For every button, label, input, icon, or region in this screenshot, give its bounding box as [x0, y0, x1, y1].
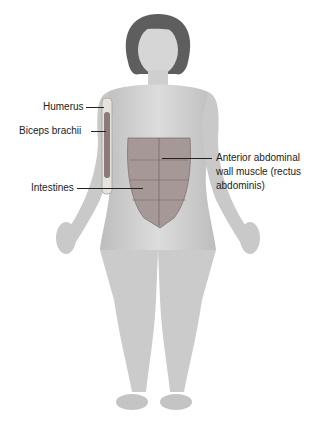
- anatomy-figure: [0, 0, 316, 426]
- right-leg: [158, 250, 216, 392]
- intestines-label: Intestines: [31, 182, 74, 194]
- biceps-leader: [91, 131, 106, 132]
- left-leg: [100, 250, 158, 392]
- humerus-label: Humerus: [43, 101, 84, 113]
- biceps-label: Biceps brachii: [19, 125, 81, 137]
- biceps-muscle: [104, 112, 110, 178]
- abdominal-leader: [162, 158, 212, 159]
- abdominal-label-3: abdominis): [216, 180, 265, 192]
- humerus-leader: [86, 107, 104, 108]
- abdominal-label-1: Anterior abdominal: [216, 152, 300, 164]
- face: [138, 25, 178, 75]
- intestines-leader: [77, 188, 143, 189]
- abdominal-label-2: wall muscle (rectus: [216, 166, 301, 178]
